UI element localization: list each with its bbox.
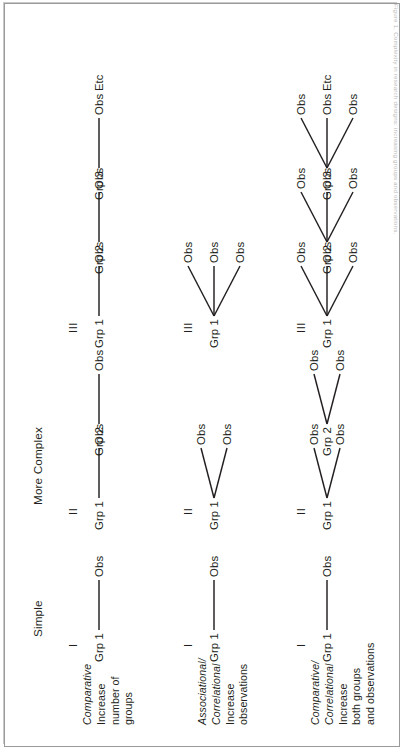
- obs-node-r2c3-g1-2: Obs: [208, 242, 221, 263]
- column-header-more-complex: More Complex: [32, 427, 45, 505]
- obs-node-r3c1-g1-1: Obs: [321, 556, 334, 577]
- group-node-r1c3-2: Grp 2: [93, 245, 106, 274]
- group-node-r1c3-1: Grp 1: [93, 319, 106, 348]
- obs-node-r1c1-g1-1: Obs: [93, 556, 106, 577]
- row-label-row-comparative-correlational-both: Comparative/CorrelationalIncreaseboth gr…: [309, 643, 378, 725]
- link-r3c3-g3-o3: [327, 118, 353, 168]
- obs-node-r3c2-g1-1: Obs: [308, 424, 321, 445]
- row-label-line: Increase: [337, 643, 351, 725]
- link-r3c2-g2-o1: [314, 374, 327, 424]
- row-label-line: and observations: [364, 643, 378, 725]
- obs-node-r1c3-g3-1: Obs: [93, 94, 106, 115]
- obs-node-r3c3-g3-1: Obs: [295, 94, 308, 115]
- group-node-r3c1-1: Grp 1: [321, 633, 334, 662]
- obs-node-r2c2-g1-1: Obs: [195, 424, 208, 445]
- etc-label-r1: Etc: [93, 75, 106, 91]
- row-label-line: Increase: [224, 658, 238, 725]
- link-r3c3-g3-o1: [301, 118, 327, 168]
- group-node-r1c2-1: Grp 1: [93, 501, 106, 530]
- group-node-r1c2-2: Grp 2: [93, 427, 106, 456]
- obs-node-r3c2-g2-1: Obs: [308, 350, 321, 371]
- link-r2c2-g1-o2: [214, 448, 227, 498]
- obs-node-r3c2-g2-2: Obs: [334, 350, 347, 371]
- figure-page: SimpleMore ComplexComparativeIncreasenum…: [0, 0, 412, 752]
- group-node-r2c1-1: Grp 1: [208, 633, 221, 662]
- group-node-r2c3-1: Grp 1: [208, 319, 221, 348]
- column-numeral-iii-row2: III: [182, 322, 194, 333]
- obs-node-r3c3-g3-2: Obs: [321, 94, 334, 115]
- obs-node-r3c3-g3-3: Obs: [347, 94, 360, 115]
- group-node-r3c3-1: Grp 1: [321, 319, 334, 348]
- group-node-r3c2-2: Grp 2: [321, 427, 334, 456]
- row-label-row-associational-observations: Associational/CorrelationalIncreaseobser…: [196, 658, 251, 725]
- etc-label-r3: Etc: [321, 75, 334, 91]
- group-node-r2c2-1: Grp 1: [208, 501, 221, 530]
- figure-caption-text: Figure 1. Complexity in research designs…: [390, 4, 400, 748]
- figure-caption-edge: Figure 1. Complexity in research designs…: [390, 4, 400, 748]
- link-r2c3-g1-o3: [214, 266, 240, 316]
- row-label-emphasis: Associational/: [196, 658, 210, 725]
- column-numeral-ii-row2: II: [182, 508, 194, 515]
- column-numeral-iii-row1: III: [67, 322, 79, 333]
- obs-node-r2c2-g1-2: Obs: [221, 424, 234, 445]
- figure-frame: SimpleMore ComplexComparativeIncreasenum…: [4, 3, 400, 747]
- obs-node-r3c3-g2-3: Obs: [347, 168, 360, 189]
- column-header-simple: Simple: [32, 600, 45, 637]
- figure-sheet: SimpleMore ComplexComparativeIncreasenum…: [9, 7, 405, 751]
- row-label-line: Increase: [95, 664, 109, 725]
- group-node-r3c3-3: Grp 3: [321, 171, 334, 200]
- obs-node-r1c2-g2-1: Obs: [93, 350, 106, 371]
- group-node-r3c3-2: Grp 2: [321, 245, 334, 274]
- row-label-line: observations: [237, 658, 251, 725]
- group-node-r1c1-1: Grp 1: [93, 633, 106, 662]
- row-label-line: groups: [122, 664, 136, 725]
- column-numeral-i-row2: I: [182, 643, 194, 647]
- row-label-row-comparative-groups: ComparativeIncreasenumber ofgroups: [81, 664, 136, 725]
- row-label-line: number of: [109, 664, 123, 725]
- column-numeral-iii-row3: III: [295, 322, 307, 333]
- link-r3c2-g2-o2: [327, 374, 340, 424]
- obs-node-r3c3-g1-1: Obs: [295, 242, 308, 263]
- obs-node-r3c2-g1-2: Obs: [334, 424, 347, 445]
- obs-node-r3c3-g1-3: Obs: [347, 242, 360, 263]
- row-label-emphasis: Comparative: [81, 664, 95, 725]
- link-r2c2-g1-o1: [201, 448, 214, 498]
- row-label-emphasis: Correlational: [210, 658, 224, 725]
- column-numeral-ii-row1: II: [67, 508, 79, 515]
- group-node-r3c2-1: Grp 1: [321, 501, 334, 530]
- obs-node-r3c3-g2-1: Obs: [295, 168, 308, 189]
- column-numeral-i-row3: I: [295, 643, 307, 647]
- column-numeral-ii-row3: II: [295, 508, 307, 515]
- group-node-r1c3-3: Grp 3: [93, 171, 106, 200]
- obs-node-r2c3-g1-1: Obs: [182, 242, 195, 263]
- rotated-canvas: SimpleMore ComplexComparativeIncreasenum…: [9, 7, 405, 751]
- obs-node-r2c1-g1-1: Obs: [208, 556, 221, 577]
- row-label-line: both groups: [350, 643, 364, 725]
- link-r2c3-g1-o1: [188, 266, 214, 316]
- column-numeral-i-row1: I: [67, 643, 79, 647]
- obs-node-r2c3-g1-3: Obs: [234, 242, 247, 263]
